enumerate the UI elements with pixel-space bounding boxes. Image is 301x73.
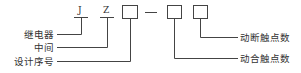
label-relay: 继电器 — [0, 29, 54, 40]
code-letter-j: J — [78, 5, 82, 15]
no-contacts-box — [168, 6, 182, 19]
label-intermediate: 中间 — [0, 42, 54, 53]
code-letter-z: Z — [103, 5, 109, 15]
z-leader-line — [57, 18, 108, 48]
design-serial-leader-line — [57, 19, 131, 62]
design-serial-box — [123, 6, 138, 19]
nc-contacts-leader-line — [201, 19, 239, 38]
j-leader-line — [57, 18, 82, 35]
nc-contacts-box — [194, 6, 208, 19]
label-no-contacts: 动合触点数 — [240, 53, 290, 64]
label-design-serial: 设计序号 — [0, 56, 54, 67]
label-nc-contacts: 动断触点数 — [240, 32, 290, 43]
no-contacts-leader-line — [175, 19, 239, 59]
